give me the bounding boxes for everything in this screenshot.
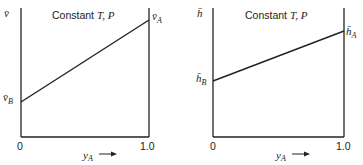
figure: v̄ Constant T, P v̄A v̄B 0 1.0 yA h̄ Con… <box>0 0 363 165</box>
end-label-vA: v̄A <box>152 10 162 25</box>
chart-title: Constant T, P <box>52 9 115 21</box>
x-tick-1: 1.0 <box>140 140 155 152</box>
start-label-vB: v̄B <box>3 91 13 106</box>
arrow-right-icon <box>292 152 310 157</box>
y-axis-label: h̄ <box>197 7 203 19</box>
chart-title: Constant T, P <box>245 9 308 21</box>
data-line <box>21 20 149 102</box>
x-tick-0: 0 <box>210 140 216 152</box>
arrow-right-icon <box>99 152 117 157</box>
data-line <box>213 31 344 81</box>
x-tick-0: 0 <box>17 140 23 152</box>
x-axis-label: yA <box>275 149 286 163</box>
chart-enthalpy: h̄ Constant T, P h̄A h̄B 0 1.0 yA <box>196 7 357 163</box>
x-tick-1: 1.0 <box>336 140 351 152</box>
x-axis-label: yA <box>82 149 93 163</box>
chart-volume: v̄ Constant T, P v̄A v̄B 0 1.0 yA <box>3 7 162 163</box>
y-axis-label: v̄ <box>4 7 9 19</box>
end-label-hA: h̄A <box>346 25 357 40</box>
start-label-hB: h̄B <box>196 72 207 87</box>
